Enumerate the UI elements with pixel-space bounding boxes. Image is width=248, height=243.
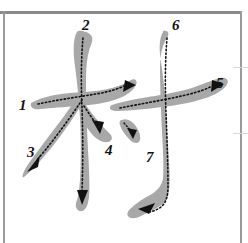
- stroke-number-4: 4: [105, 143, 113, 158]
- stroke-number-7: 7: [146, 150, 154, 165]
- stroke-number-6: 6: [172, 18, 180, 33]
- stroke-6-shape: [128, 31, 170, 216]
- horizontal-rule-top: [0, 11, 241, 14]
- stroke-number-1: 1: [19, 98, 27, 113]
- faint-rule-right-lower: [233, 133, 248, 134]
- vertical-rule-left: [3, 11, 5, 243]
- stroke-number-5: 5: [216, 76, 224, 91]
- vertical-rule-right: [240, 11, 242, 243]
- stroke-order-diagram: 1 2 3 4 5 6 7: [0, 0, 248, 243]
- character-strokes-svg: [0, 0, 248, 243]
- faint-rule-right-upper: [233, 67, 248, 68]
- stroke-number-3: 3: [27, 145, 35, 160]
- stroke-number-2: 2: [82, 18, 90, 33]
